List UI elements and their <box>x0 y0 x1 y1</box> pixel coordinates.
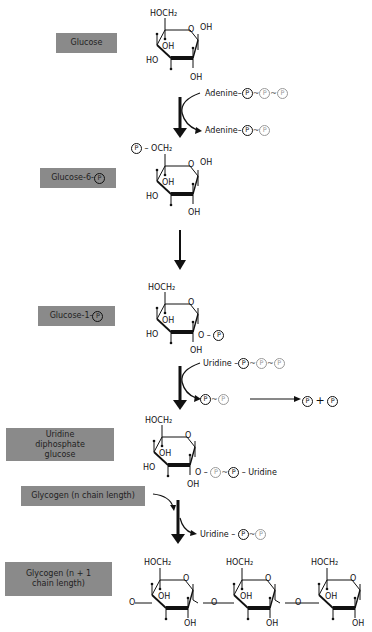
glycosidic-oxygen-label: O <box>211 598 217 607</box>
oh-label: OH <box>190 73 202 82</box>
glycosidic-oxygen-label: O <box>295 598 301 607</box>
hoch2-label: HOCH₂ <box>144 558 171 567</box>
ho-label: HO <box>146 330 158 339</box>
glycosidic-oxygen-label: O <box>129 598 135 607</box>
atp-label: Adenine–P~P~P <box>205 88 288 99</box>
ho-label: HO <box>146 192 158 201</box>
phosphate-icon: P <box>228 467 239 478</box>
phosphate-icon: P <box>238 358 249 369</box>
phosphate-icon: P <box>242 88 253 99</box>
utp-label: Uridine –P~P~P <box>203 358 285 369</box>
ring-oxygen-label: O <box>265 574 271 583</box>
oh-label: OH <box>159 449 171 458</box>
hoch2-label: HOCH₂ <box>150 9 177 18</box>
oh-label: OH <box>158 592 170 601</box>
phosphate-icon: P <box>255 529 266 540</box>
phosphate-icon: P <box>218 394 229 405</box>
ring-oxygen-label: O <box>183 574 189 583</box>
hoch2-label: HOCH₂ <box>226 558 253 567</box>
ho-label: HO <box>143 463 155 472</box>
pyrophosphate-label: P~P <box>200 394 229 405</box>
hoch2-label: HOCH₂ <box>145 416 172 425</box>
oh-label: OH <box>266 619 278 628</box>
oh-label: OH <box>187 480 199 489</box>
phosphate-icon: P <box>200 394 211 405</box>
phospho-och2-label: P – OCH₂ <box>131 143 172 154</box>
phosphate-icon: P <box>210 467 221 478</box>
oh-label: OH <box>162 178 174 187</box>
hoch2-label: HOCH₂ <box>311 558 338 567</box>
oh-label: OH <box>188 208 200 217</box>
ring-oxygen-label: O <box>188 25 194 34</box>
phosphate-icon: P <box>238 529 249 540</box>
phosphate-icon: P <box>256 358 267 369</box>
pathway-diagram <box>0 0 372 632</box>
phosphate-icon: P <box>302 396 313 407</box>
oh-label: OH <box>184 619 196 628</box>
adp-label: Adenine–P~P <box>205 125 270 136</box>
oh-label: OH <box>190 346 202 355</box>
oh-label: OH <box>325 592 337 601</box>
phosphate-icon: P <box>327 396 338 407</box>
oh-label: OH <box>240 592 252 601</box>
oh-label: OH <box>162 42 174 51</box>
ring-oxygen-label: O <box>188 160 194 169</box>
phosphate-icon: P <box>277 88 288 99</box>
phosphate-icon: P <box>274 358 285 369</box>
ho-label: HO <box>146 56 158 65</box>
o-phosphate-label: O – P <box>198 330 224 341</box>
inorganic-phosphate-products: P + P <box>302 394 338 407</box>
phosphate-icon: P <box>242 125 253 136</box>
ring-oxygen-label: O <box>185 431 191 440</box>
oh-label: OH <box>200 23 212 32</box>
udp-tail-label: O – P~P – Uridine <box>195 467 277 478</box>
phosphate-icon: P <box>213 330 224 341</box>
oh-label: OH <box>162 316 174 325</box>
oh-label: OH <box>200 158 212 167</box>
phosphate-icon: P <box>259 88 270 99</box>
phosphate-icon: P <box>131 143 142 154</box>
ring-oxygen-label: O <box>188 298 194 307</box>
udp-product-label: Uridine – P~P <box>200 529 266 540</box>
hoch2-label: HOCH₂ <box>148 283 175 292</box>
ring-oxygen-label: O <box>350 574 356 583</box>
phosphate-icon: P <box>259 125 270 136</box>
oh-label: OH <box>352 619 364 628</box>
